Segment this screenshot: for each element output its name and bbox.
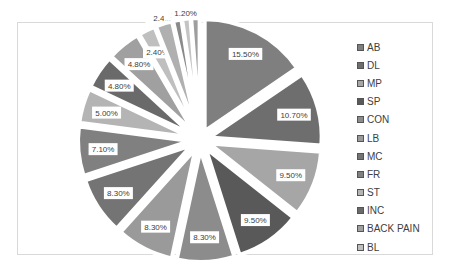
data-label: 7.10% [92,145,115,154]
legend-item: ST [357,184,420,202]
legend-swatch-icon [357,62,364,69]
legend-item: MC [357,147,420,165]
legend-item: MP [357,74,420,92]
legend-label: MC [367,151,383,162]
legend-swatch-icon [357,171,364,178]
legend-swatch-icon [357,189,364,196]
data-label: 10.70% [280,111,307,120]
legend-item: BACK PAIN [357,220,420,238]
legend-item: BL [357,238,420,256]
data-label: 9.50% [279,171,302,180]
legend-item: AB [357,38,420,56]
legend-item: INC [357,202,420,220]
legend-swatch-icon [357,244,364,251]
data-label: 8.30% [193,233,216,242]
legend-label: SP [367,96,380,107]
legend-swatch-icon [357,44,364,51]
legend-item: FR [357,165,420,183]
legend-label: DL [367,60,380,71]
data-label: 5.00% [95,109,118,118]
legend-item: DL [357,56,420,74]
data-label: 15.50% [232,50,259,59]
legend-label: AB [367,42,380,53]
legend-item: SP [357,93,420,111]
data-label: 4.80% [128,60,151,69]
data-label: 4.80% [108,82,131,91]
data-label: 8.30% [144,223,167,232]
legend-item: LB [357,129,420,147]
legend-swatch-icon [357,135,364,142]
legend-label: ST [367,187,380,198]
legend-label: LB [367,133,379,144]
legend-label: BL [367,242,379,253]
legend-label: INC [367,205,384,216]
data-label: 8.30% [107,189,130,198]
legend-label: BACK PAIN [367,223,420,234]
legend-swatch-icon [357,80,364,87]
legend-swatch-icon [357,98,364,105]
legend-swatch-icon [357,225,364,232]
chart-legend: AB DL MP SP CON LB MC FR ST INC BACK PAI… [357,38,420,256]
legend-label: FR [367,169,380,180]
legend-label: CON [367,114,389,125]
legend-label: MP [367,78,382,89]
data-label: 9.50% [244,216,267,225]
legend-swatch-icon [357,116,364,123]
legend-swatch-icon [357,153,364,160]
legend-swatch-icon [357,207,364,214]
legend-item: CON [357,111,420,129]
